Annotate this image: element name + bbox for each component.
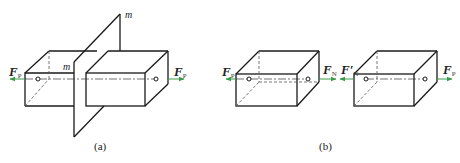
force-label-box-1-right: FN <box>322 62 337 78</box>
force-label-box-1-left: FP <box>221 64 235 80</box>
plane-label-left: m <box>63 61 70 72</box>
force-label-right: FP <box>173 64 187 80</box>
force-label-left: FP <box>8 64 22 80</box>
load-point-box-2-left <box>364 77 368 81</box>
load-point-right <box>154 77 158 81</box>
load-point-box-1-left <box>247 77 251 81</box>
load-point-box-1-right <box>306 77 310 81</box>
plane-label-top: m <box>125 9 132 20</box>
load-point-left <box>36 77 40 81</box>
force-label-box-2-right: FP <box>442 62 456 78</box>
load-point-box-2-right <box>423 77 427 81</box>
figure-b: FP FN F′N FP (b) <box>221 51 456 153</box>
caption-b: (b) <box>319 140 332 153</box>
cutting-plane-m <box>74 14 120 137</box>
diagram-canvas: FP FP m m (a) <box>0 0 460 163</box>
force-label-box-2-left: F′N <box>340 62 358 78</box>
caption-a: (a) <box>94 140 107 153</box>
figure-a: FP FP m m (a) <box>8 9 187 153</box>
